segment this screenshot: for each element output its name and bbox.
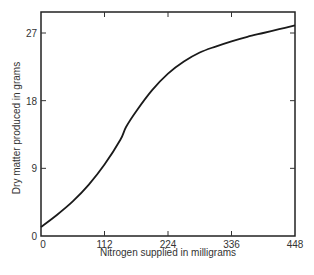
- plot-frame: [41, 12, 295, 236]
- y-tick-labels: 091827: [26, 28, 38, 242]
- y-tick-label: 27: [26, 28, 38, 39]
- x-tick-label: 0: [40, 239, 46, 250]
- y-axis-label: Dry matter produced in grams: [11, 62, 22, 194]
- axis-ticks: [41, 12, 295, 236]
- chart: 0112224336448 091827 Nitrogen supplied i…: [0, 0, 314, 275]
- x-axis-label: Nitrogen supplied in milligrams: [100, 247, 236, 258]
- y-tick-label: 18: [26, 96, 38, 107]
- y-tick-label: 9: [31, 163, 37, 174]
- x-tick-label: 448: [287, 239, 304, 250]
- data-curve: [41, 25, 295, 226]
- plot-border: [41, 12, 295, 236]
- y-tick-label: 0: [31, 231, 37, 242]
